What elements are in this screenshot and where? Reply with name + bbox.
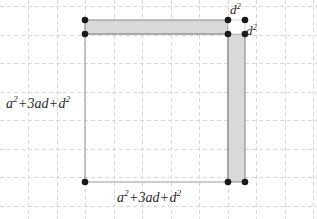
bottom-label-term-a: a	[117, 190, 124, 205]
left-label-plus-1: +	[18, 96, 28, 111]
vertex-top-right-inner-upper	[225, 17, 232, 24]
left-label-exp-a: 2	[13, 94, 18, 104]
left-label-term-3ad: 3ad	[28, 96, 49, 111]
d-squared-notch	[228, 20, 245, 34]
geometry-figure: a2+3ad+d2 a2+3ad+d2 d2 d2	[0, 0, 317, 219]
right-vertical-strip	[228, 34, 245, 182]
main-rectangle-outline	[85, 34, 228, 182]
bottom-label-term-3ad: 3ad	[139, 190, 160, 205]
left-label-plus-2: +	[49, 96, 59, 111]
d-squared-right-label: d2	[246, 24, 257, 37]
bottom-label-exp-a: 2	[124, 188, 129, 198]
left-side-label: a2+3ad+d2	[6, 97, 70, 111]
vertex-top-left-upper	[82, 17, 89, 24]
top-horizontal-strip	[85, 20, 228, 34]
bottom-label-exp-d: 2	[176, 188, 181, 198]
bottom-label-plus-1: +	[129, 190, 139, 205]
d-squared-right-exponent: 2	[253, 22, 257, 32]
d-squared-top-label: d2	[230, 3, 241, 16]
vertex-bottom-left	[82, 179, 89, 186]
left-label-exp-d: 2	[65, 94, 70, 104]
vertex-bottom-right-outer	[242, 179, 249, 186]
vertex-bottom-right-inner	[225, 179, 232, 186]
vertex-top-left-lower	[82, 31, 89, 38]
bottom-side-label: a2+3ad+d2	[117, 191, 181, 205]
bottom-label-plus-2: +	[160, 190, 170, 205]
vertex-dots-layer	[82, 17, 249, 186]
d-squared-top-exponent: 2	[237, 1, 241, 11]
vertex-top-right-inner-lower	[225, 31, 232, 38]
left-label-term-a: a	[6, 96, 13, 111]
